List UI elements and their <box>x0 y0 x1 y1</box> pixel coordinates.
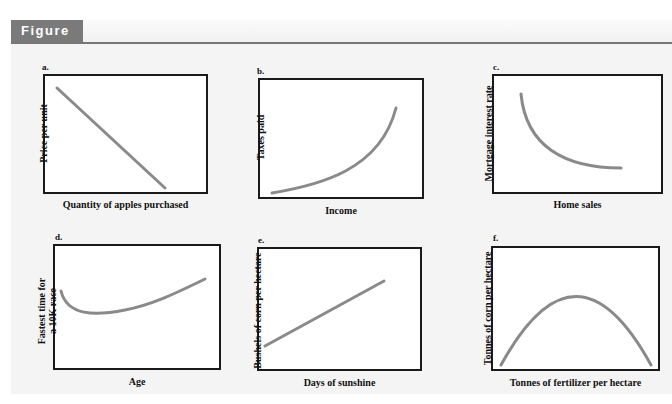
figure-title: Figure 1 <box>11 20 83 42</box>
panel-f-ylabel: Tonnes of corn per hectare <box>482 239 493 379</box>
panel-b-plot <box>258 78 424 199</box>
panel-d-xlabel: Age <box>53 376 221 387</box>
panel-a-ylabel: Price per unit <box>38 79 49 189</box>
panel-d-letter: d. <box>55 232 62 242</box>
panel-b-curve <box>260 80 426 201</box>
panel-c-plot <box>492 74 663 194</box>
panel-c-ylabel: Mortgage interest rate <box>483 74 494 194</box>
panel-c-letter: c. <box>493 62 499 72</box>
panel-d-ylabel: Fastest time for a 10K race <box>36 256 58 366</box>
panel-e-xlabel: Days of sunshine <box>257 377 422 388</box>
panel-d-ylabel-line1: Fastest time for <box>36 278 47 345</box>
panel-b-xlabel: Income <box>258 205 424 216</box>
panel-f-xlabel: Tonnes of fertilizer per hectare <box>491 377 660 388</box>
panel-e-plot <box>257 247 422 371</box>
panel-f-curve <box>493 248 662 373</box>
panel-a-curve <box>45 76 210 196</box>
figure-header-band <box>11 20 672 42</box>
panel-f-plot <box>491 246 660 371</box>
panel-f-letter: f. <box>493 233 498 243</box>
panel-d-curve <box>55 246 223 372</box>
panel-a-plot <box>43 74 208 194</box>
panel-d-ylabel-line2: a 10K race <box>47 288 58 334</box>
panel-d-plot <box>53 244 221 370</box>
panel-b-ylabel: Taxes paid <box>255 83 266 193</box>
panel-c-curve <box>494 76 665 196</box>
panel-a-xlabel: Quantity of apples purchased <box>43 199 208 210</box>
panel-b-letter: b. <box>257 66 264 76</box>
panel-c-xlabel: Home sales <box>492 199 663 210</box>
panel-a-letter: a. <box>42 62 49 72</box>
panel-e-curve <box>259 249 424 373</box>
panel-e-ylabel: Bushels of corn per hectare <box>252 241 263 381</box>
